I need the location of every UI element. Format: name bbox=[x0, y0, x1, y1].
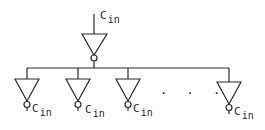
load-2-cin-sub: in bbox=[93, 108, 105, 119]
load-3-cin-sub: in bbox=[141, 107, 153, 118]
load-n-cin-label: Cin bbox=[234, 102, 254, 118]
ellipsis: . . . bbox=[160, 83, 226, 97]
load-n-inverter-bubble bbox=[226, 105, 232, 111]
load-3-cin-label: Cin bbox=[133, 99, 153, 115]
load-2-inverter-bubble bbox=[75, 102, 81, 108]
driver-inverter-triangle bbox=[82, 34, 107, 55]
load-3-inverter-triangle bbox=[116, 79, 140, 101]
driver-cin-label: Cin bbox=[100, 6, 120, 22]
load-3-cin-main: C bbox=[133, 102, 140, 115]
load-3-inverter-bubble bbox=[125, 102, 131, 108]
load-1-cin-main: C bbox=[32, 102, 39, 115]
load-2-inverter-triangle bbox=[66, 79, 90, 101]
load-1-cin-sub: in bbox=[40, 107, 52, 118]
load-n-cin-sub: in bbox=[242, 110, 254, 121]
load-2-cin-label: Cin bbox=[85, 100, 105, 116]
driver-cin-main: C bbox=[100, 9, 107, 22]
load-2-cin-main: C bbox=[85, 103, 92, 116]
driver-cin-sub: in bbox=[108, 14, 120, 25]
load-1-inverter-triangle bbox=[15, 79, 39, 101]
load-1-inverter-bubble bbox=[24, 102, 30, 108]
load-n-cin-main: C bbox=[234, 105, 241, 118]
driver-inverter-bubble bbox=[91, 55, 97, 61]
load-1-cin-label: Cin bbox=[32, 99, 52, 115]
